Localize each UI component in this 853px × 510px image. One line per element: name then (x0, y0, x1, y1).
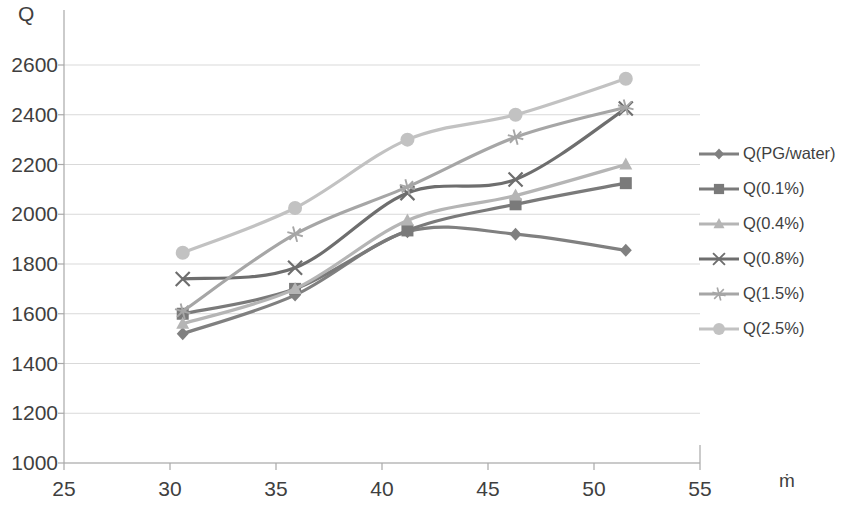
y-axis-tick-label: 1000 (0, 452, 58, 473)
data-point-circle-marker (400, 133, 414, 147)
data-point-diamond-marker (714, 148, 724, 159)
legend-item-label: Q(PG/water) (741, 144, 836, 163)
legend-item[interactable]: Q(PG/water) (697, 136, 853, 171)
data-point-triangle-marker (619, 158, 632, 170)
legend-item-label: Q(2.5%) (741, 319, 804, 338)
y-axis-tick-label: 2600 (0, 54, 58, 75)
legend-marker-cross-icon (697, 250, 741, 268)
y-axis-tick-label: 1600 (0, 303, 58, 324)
data-point-circle-marker (176, 246, 190, 260)
data-point-asterisk-marker (287, 226, 302, 241)
data-point-cross-marker (288, 261, 302, 275)
legend-item-label: Q(0.8%) (741, 249, 804, 268)
y-axis-tick-label: 2400 (0, 104, 58, 125)
chart-container: Q ṁ 100012001400160018002000220024002600… (0, 0, 853, 510)
marker-shape (509, 108, 523, 122)
data-point-square-marker (714, 183, 724, 193)
marker-shape (177, 327, 189, 340)
legend-item-label: Q(1.5%) (741, 284, 804, 303)
marker-shape (619, 72, 633, 86)
marker-shape (401, 224, 413, 236)
marker-shape (510, 228, 522, 241)
data-point-circle-marker (619, 72, 633, 86)
y-axis-tick-label: 1200 (0, 402, 58, 423)
y-axis-tick-label: 2000 (0, 203, 58, 224)
marker-shape (714, 183, 724, 193)
data-point-cross-marker (509, 172, 523, 186)
data-point-square-marker (401, 224, 413, 236)
legend-item[interactable]: Q(1.5%) (697, 276, 853, 311)
marker-shape (288, 261, 302, 275)
x-axis-tick-label: 50 (569, 478, 619, 499)
data-point-circle-marker (509, 108, 523, 122)
data-point-diamond-marker (510, 228, 522, 241)
series-4 (175, 100, 634, 319)
legend-item[interactable]: Q(0.1%) (697, 171, 853, 206)
data-point-diamond-marker (620, 244, 632, 257)
marker-shape (619, 158, 632, 170)
legend-marker-triangle-icon (697, 215, 741, 233)
legend-marker-circle-icon (697, 320, 741, 338)
x-axis-tick-label: 40 (357, 478, 407, 499)
series-0 (177, 225, 632, 340)
legend-item-label: Q(0.4%) (741, 214, 804, 233)
marker-shape (713, 323, 725, 335)
x-axis-title: ṁ (779, 470, 795, 492)
legend-marker-square-icon (697, 180, 741, 198)
y-axis-tick-labels: 100012001400160018002000220024002600 (0, 0, 58, 510)
x-axis-tick-label: 30 (145, 478, 195, 499)
marker-shape (714, 148, 724, 159)
data-point-diamond-marker (177, 327, 189, 340)
marker-shape (620, 177, 632, 189)
y-axis-tick-label: 1800 (0, 253, 58, 274)
marker-shape (509, 172, 523, 186)
x-axis-tick-label: 45 (463, 478, 513, 499)
legend-item[interactable]: Q(0.4%) (697, 206, 853, 241)
legend-item[interactable]: Q(0.8%) (697, 241, 853, 276)
data-point-circle-marker (288, 201, 302, 215)
series-1 (177, 177, 632, 320)
chart-legend: Q(PG/water)Q(0.1%)Q(0.4%)Q(0.8%)Q(1.5%)Q… (697, 136, 853, 346)
marker-shape (620, 244, 632, 257)
marker-shape (400, 133, 414, 147)
legend-item[interactable]: Q(2.5%) (697, 311, 853, 346)
legend-marker-diamond-icon (697, 145, 741, 163)
data-point-circle-marker (713, 323, 725, 335)
marker-shape (176, 246, 190, 260)
x-axis-tick-label: 35 (251, 478, 301, 499)
series-line (183, 227, 626, 334)
x-axis-tick-label: 25 (39, 478, 89, 499)
legend-item-label: Q(0.1%) (741, 179, 804, 198)
y-axis-tick-label: 2200 (0, 154, 58, 175)
legend-marker-asterisk-icon (697, 285, 741, 303)
x-axis-tick-label: 55 (675, 478, 725, 499)
series-line (183, 183, 626, 314)
marker-shape (287, 226, 302, 241)
marker-shape (288, 201, 302, 215)
marker-shape (508, 129, 523, 144)
data-point-square-marker (620, 177, 632, 189)
data-point-asterisk-marker (508, 129, 523, 144)
y-axis-tick-label: 1400 (0, 353, 58, 374)
